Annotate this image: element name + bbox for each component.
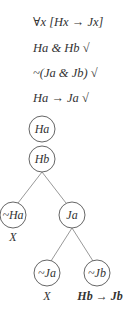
node-label: Ha (34, 122, 50, 136)
node-ha: Ha (29, 116, 55, 142)
node-hb: Hb (29, 146, 55, 172)
closed-branch-mark: X (8, 230, 17, 244)
truth-tree: Ha Hb ~Ha Ja ~Ja ~Jb X X Hb → Jb (0, 0, 124, 312)
node-not-jb: ~Jb (84, 260, 110, 286)
node-label: ~Ja (38, 266, 56, 280)
node-ja: Ja (59, 202, 85, 228)
edge-hb-ja (42, 172, 66, 203)
closed-branch-mark: X (42, 289, 51, 303)
node-label: ~Jb (88, 266, 106, 280)
node-not-ja: ~Ja (34, 260, 60, 286)
node-label: Hb (34, 152, 50, 166)
node-not-ha: ~Ha (0, 202, 26, 228)
node-label: Ja (66, 208, 77, 222)
branch-annotation: Hb → Jb (76, 289, 122, 303)
edge-ja-not-ja (51, 228, 72, 261)
edge-ja-not-jb (72, 228, 93, 261)
edge-hb-not-ha (18, 172, 42, 203)
node-label: ~Ha (2, 208, 23, 222)
